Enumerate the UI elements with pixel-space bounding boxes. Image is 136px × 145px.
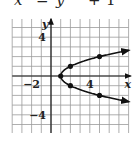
data-point — [68, 64, 73, 69]
tick-labels: −244−4xy — [23, 18, 131, 122]
x-tick-label: 4 — [86, 78, 94, 91]
data-point — [97, 93, 102, 98]
y-tick-label: 4 — [38, 31, 46, 44]
x-axis-label: x — [124, 78, 132, 91]
y-axis-label: y — [41, 18, 50, 31]
y-tick-label: −4 — [29, 109, 46, 122]
graph: −244−4xy — [0, 0, 136, 145]
data-point — [97, 54, 102, 59]
data-point — [68, 83, 73, 88]
x-tick-label: −2 — [23, 78, 40, 91]
data-point — [58, 73, 63, 78]
